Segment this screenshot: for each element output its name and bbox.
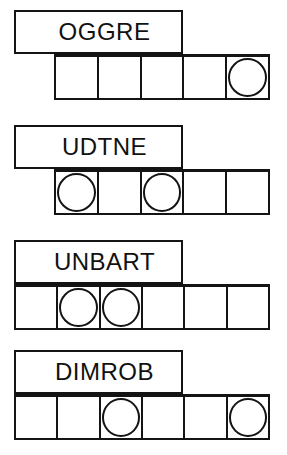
letter-cell-circled[interactable] — [101, 287, 143, 328]
puzzle-sheet: OGGREUDTNEUNBARTDIMROB — [0, 0, 287, 455]
letter-cell[interactable] — [143, 287, 185, 328]
letter-cell[interactable] — [184, 172, 227, 213]
letter-cell[interactable] — [143, 397, 185, 438]
scrambled-word-text: DIMROB — [16, 360, 181, 384]
answer-grid — [54, 54, 270, 100]
word-banner: OGGRE — [14, 10, 183, 54]
letter-cell[interactable] — [16, 397, 58, 438]
letter-cell[interactable] — [228, 287, 268, 328]
circle-icon — [143, 173, 182, 212]
letter-cell[interactable] — [142, 57, 185, 98]
circle-icon — [229, 398, 267, 437]
letter-cell[interactable] — [16, 287, 58, 328]
answer-grid — [54, 169, 270, 215]
word-banner: UDTNE — [14, 125, 183, 169]
letter-cell-circled[interactable] — [101, 397, 143, 438]
letter-cell[interactable] — [99, 57, 142, 98]
scrambled-word-text: OGGRE — [16, 20, 181, 44]
letter-cell[interactable] — [185, 397, 227, 438]
letter-cell[interactable] — [227, 172, 268, 213]
letter-cell[interactable] — [99, 172, 142, 213]
answer-grid — [14, 284, 270, 330]
circle-icon — [59, 288, 97, 327]
scrambled-word-text: UNBART — [16, 250, 181, 274]
letter-cell-circled[interactable] — [228, 397, 268, 438]
circle-icon — [228, 58, 267, 97]
word-banner: UNBART — [14, 240, 183, 284]
letter-cell-circled[interactable] — [227, 57, 268, 98]
circle-icon — [102, 398, 140, 437]
scrambled-word-text: UDTNE — [16, 135, 181, 159]
letter-cell-circled[interactable] — [142, 172, 185, 213]
circle-icon — [102, 288, 140, 327]
letter-cell[interactable] — [185, 287, 227, 328]
circle-icon — [57, 173, 96, 212]
letter-cell[interactable] — [56, 57, 99, 98]
letter-cell-circled[interactable] — [58, 287, 100, 328]
letter-cell-circled[interactable] — [56, 172, 99, 213]
answer-grid — [14, 394, 270, 440]
letter-cell[interactable] — [58, 397, 100, 438]
letter-cell[interactable] — [184, 57, 227, 98]
word-banner: DIMROB — [14, 350, 183, 394]
